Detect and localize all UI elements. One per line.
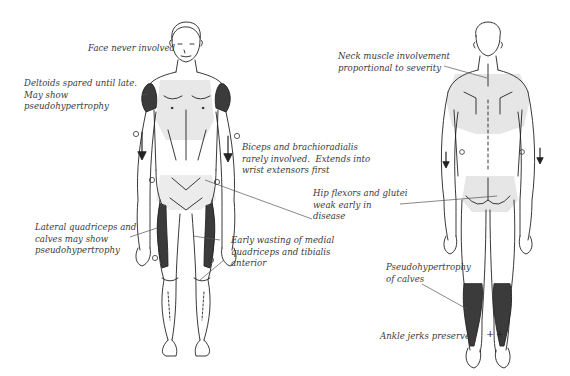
label-neck: Neck muscle involvement proportional to …	[338, 51, 450, 74]
posterior-figure	[441, 22, 543, 368]
label-deltoids: Deltoids spared until late. May show pse…	[24, 78, 137, 113]
label-lateral-quadriceps: Lateral quadriceps and calves may show p…	[35, 222, 136, 257]
label-calves: Pseudohypertrophy of calves	[386, 262, 471, 285]
hip-weakness-shade	[156, 175, 216, 210]
deltoid-left	[142, 84, 157, 112]
lateral-quad-left	[157, 204, 168, 268]
hair	[172, 27, 200, 38]
head-back-outline	[476, 22, 501, 56]
gluteal-weakness-shade	[462, 176, 518, 212]
anterior-figure	[136, 22, 236, 356]
label-biceps: Biceps and brachioradialis rarely involv…	[242, 142, 370, 177]
anatomy-figures	[0, 0, 570, 376]
ankle-reflex-plus: ++	[486, 328, 505, 340]
head-outline	[172, 22, 201, 62]
label-face: Face never involved	[88, 43, 175, 55]
posterior-reflex-circles	[460, 150, 525, 155]
label-ankle-jerks: Ankle jerks preserved	[380, 331, 475, 343]
label-medial-quadriceps: Early wasting of medial quadriceps and t…	[231, 235, 334, 270]
deltoid-right	[215, 84, 230, 112]
arm-right	[216, 112, 235, 250]
label-hip-flexors: Hip flexors and glutei weak early in dis…	[313, 188, 408, 223]
diagram-stage: Face never involved Deltoids spared unti…	[0, 0, 570, 376]
